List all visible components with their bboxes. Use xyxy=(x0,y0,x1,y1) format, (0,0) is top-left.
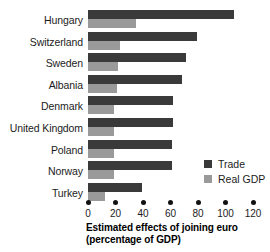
bar-trade xyxy=(88,118,173,127)
bar-real-gdp xyxy=(88,127,114,136)
category-label: Sweden xyxy=(0,52,83,74)
bar-row: Sweden xyxy=(0,52,270,74)
legend-item-trade: Trade xyxy=(204,156,265,171)
x-tick-dot xyxy=(86,200,91,205)
x-tick-dot xyxy=(141,200,146,205)
x-tick-label: 20 xyxy=(102,208,130,219)
x-tick-dot xyxy=(113,200,118,205)
bar-trade xyxy=(88,96,173,105)
x-tick-label: 120 xyxy=(239,208,267,219)
category-label: Poland xyxy=(0,139,83,161)
x-tick-dot xyxy=(223,200,228,205)
bar-trade xyxy=(88,75,182,84)
bar-real-gdp xyxy=(88,84,117,93)
bar-trade xyxy=(88,183,142,192)
bar-real-gdp xyxy=(88,105,114,114)
category-label: United Kingdom xyxy=(0,117,83,139)
bar-trade xyxy=(88,161,172,170)
bar-real-gdp xyxy=(88,149,114,158)
chart-legend: Trade Real GDP xyxy=(204,156,265,186)
x-tick-dot xyxy=(196,200,201,205)
x-tick-dot xyxy=(251,200,256,205)
bar-row: Switzerland xyxy=(0,31,270,53)
bar-row: United Kingdom xyxy=(0,117,270,139)
bar-real-gdp xyxy=(88,62,118,71)
x-tick-label: 0 xyxy=(74,208,102,219)
category-label: Switzerland xyxy=(0,31,83,53)
x-tick-label: 100 xyxy=(212,208,240,219)
x-axis-title-line-1: Estimated effects of joining euro xyxy=(86,222,270,234)
x-tick-label: 40 xyxy=(129,208,157,219)
bar-trade xyxy=(88,32,197,41)
legend-item-real-gdp: Real GDP xyxy=(204,171,265,186)
category-label: Norway xyxy=(0,160,83,182)
bar-real-gdp xyxy=(88,19,136,28)
x-axis-title-line-2: (percentage of GDP) xyxy=(86,234,270,246)
legend-swatch-trade xyxy=(204,160,212,168)
bar-row: Hungary xyxy=(0,9,270,31)
legend-swatch-real-gdp xyxy=(204,175,212,183)
category-label: Hungary xyxy=(0,9,83,31)
x-tick-label: 60 xyxy=(157,208,185,219)
x-axis-title: Estimated effects of joining euro (perce… xyxy=(86,222,270,246)
bar-real-gdp xyxy=(88,170,114,179)
bar-trade xyxy=(88,140,172,149)
legend-label-trade: Trade xyxy=(218,158,245,170)
bar-trade xyxy=(88,10,234,19)
bar-real-gdp xyxy=(88,41,120,50)
bar-row: Albania xyxy=(0,74,270,96)
x-tick-label: 80 xyxy=(184,208,212,219)
bar-row: Denmark xyxy=(0,95,270,117)
category-label: Denmark xyxy=(0,95,83,117)
legend-label-real-gdp: Real GDP xyxy=(218,173,265,185)
x-tick-dot xyxy=(168,200,173,205)
bar-trade xyxy=(88,53,186,62)
category-label: Albania xyxy=(0,74,83,96)
bar-chart: HungarySwitzerlandSwedenAlbaniaDenmarkUn… xyxy=(0,0,270,252)
